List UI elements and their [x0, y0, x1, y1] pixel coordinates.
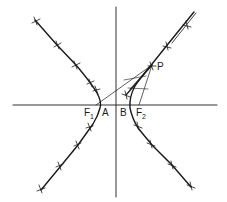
label-f1: F1 [84, 107, 94, 120]
label-p: P [157, 61, 164, 72]
label-b: B [120, 107, 127, 118]
label-f2: F2 [136, 107, 146, 120]
label-a: A [102, 107, 109, 118]
hyperbola-diagram: F1 A B F2 P [0, 0, 227, 202]
line-f1-p [96, 65, 152, 105]
right-branch [130, 12, 194, 187]
